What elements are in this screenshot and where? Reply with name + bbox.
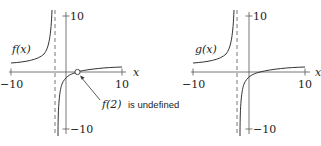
x-max-label: 10	[298, 78, 312, 91]
annotation-text: is undefined	[128, 99, 179, 110]
plot-f: f(x) x −10 10 10 −10 f(2) is undefined	[0, 10, 179, 136]
y-min-label: −10	[70, 123, 93, 136]
diagram-canvas: f(x) x −10 10 10 −10 f(2) is undefined g…	[0, 0, 321, 146]
x-min-label: −10	[0, 78, 23, 91]
hole-marker	[75, 69, 80, 74]
plot-g: g(x) x −10 10 10 −10	[182, 10, 321, 136]
x-axis-label: x	[133, 66, 140, 79]
y-max-label: 10	[70, 10, 84, 23]
y-max-label: 10	[253, 10, 267, 23]
function-label-f: f(x)	[11, 43, 31, 56]
function-label-g: g(x)	[195, 43, 217, 56]
x-axis-label: x	[315, 66, 321, 79]
y-min-label: −10	[253, 123, 276, 136]
x-min-label: −10	[182, 78, 205, 91]
annotation-arrow	[81, 77, 100, 100]
arrow-head-icon	[80, 76, 85, 80]
curve-right-branch-upper	[79, 67, 122, 71]
x-max-label: 10	[115, 78, 129, 91]
annotation-fn: f(2)	[101, 98, 122, 111]
